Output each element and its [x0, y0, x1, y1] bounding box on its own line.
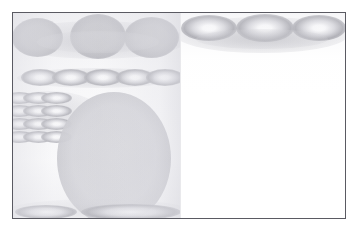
figure-frame	[12, 12, 346, 219]
band-node-4	[116, 69, 154, 86]
right-node-3	[292, 15, 345, 41]
stacked-rows-haze	[13, 91, 103, 139]
band-node-5	[146, 69, 180, 86]
stack-r4-c1	[13, 131, 35, 143]
stack-r2-c3	[41, 105, 72, 117]
stack-r3-c3	[41, 118, 72, 130]
right-panel	[180, 13, 345, 218]
bottom-sliver-right	[81, 204, 180, 218]
top-lobe-1	[13, 18, 63, 57]
left-panel-horizontal-wash	[13, 13, 180, 218]
stack-r2-c1	[13, 105, 35, 117]
stack-r1-c1	[13, 92, 35, 104]
left-panel-vertical-wash	[13, 13, 180, 218]
stack-r1-c2	[23, 92, 54, 104]
right-node-1	[181, 15, 237, 41]
top-lobe-2	[70, 14, 126, 59]
right-chain-haze	[180, 17, 345, 53]
left-panel	[13, 13, 180, 218]
top-lobe-3	[124, 17, 179, 58]
bottom-sliver-left	[15, 205, 77, 218]
stack-r4-c3	[41, 131, 72, 143]
top-lobe-bridge-haze	[37, 31, 159, 53]
bottom-sliver-haze	[13, 199, 180, 218]
top-triple-lobe-haze	[13, 21, 180, 59]
band-node-2	[52, 69, 90, 86]
stack-r2-c2	[23, 105, 54, 117]
five-node-band-haze	[17, 68, 177, 88]
stack-r1-c3	[41, 92, 72, 104]
figure-stage	[0, 0, 359, 230]
stack-r3-c2	[23, 118, 54, 130]
band-node-1	[21, 69, 59, 86]
panel-divider	[180, 13, 181, 218]
band-node-3	[84, 69, 122, 86]
right-node-2	[236, 14, 294, 42]
stack-r4-c2	[23, 131, 54, 143]
right-panel-wash	[180, 13, 345, 218]
central-large-oval	[57, 92, 171, 218]
stack-r3-c1	[13, 118, 35, 130]
right-chain-bridge-haze	[196, 29, 328, 49]
